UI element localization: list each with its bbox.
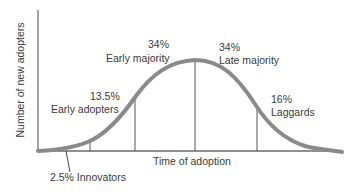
early-majority-percent: 34% (148, 38, 169, 50)
laggards-label: Laggards (271, 106, 315, 118)
late-majority-percent: 34% (219, 41, 240, 53)
late-majority-label: Late majority (219, 54, 280, 66)
laggards-percent: 16% (271, 93, 292, 105)
innovators-pointer (66, 151, 70, 172)
early-adopters-label: Early adopters (51, 103, 119, 115)
innovators-label: 2.5% Innovators (50, 171, 126, 183)
early-adopters-percent: 13.5% (90, 90, 120, 102)
y-axis-label: Number of new adopters (14, 23, 26, 138)
x-axis-label: Time of adoption (153, 155, 231, 167)
early-majority-label: Early majority (106, 52, 170, 64)
adoption-curve-chart: Number of new adopters Time of adoption … (0, 0, 352, 196)
